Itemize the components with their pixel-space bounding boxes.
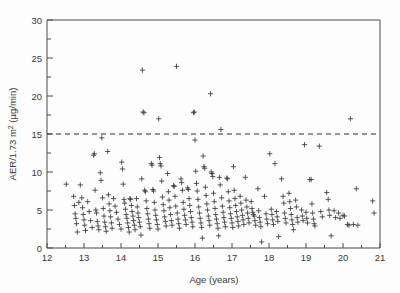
scatter-point xyxy=(83,228,88,233)
y-axis-title: AER/1.73 m2 (µg/min) xyxy=(7,88,19,181)
scatter-point xyxy=(74,221,79,226)
scatter-point xyxy=(320,214,325,219)
scatter-point xyxy=(184,222,189,227)
scatter-point xyxy=(213,212,218,217)
scatter-point xyxy=(208,91,213,96)
scatter-point xyxy=(309,201,314,206)
scatter-point xyxy=(192,137,197,142)
scatter-point xyxy=(145,211,150,216)
scatter-point xyxy=(280,194,285,199)
scatter-point xyxy=(103,224,108,229)
scatter-point xyxy=(137,220,142,225)
scatter-point xyxy=(267,151,272,156)
scatter-point xyxy=(110,226,115,231)
scatter-point xyxy=(226,198,231,203)
scatter-point xyxy=(190,224,195,229)
scatter-point xyxy=(269,212,274,217)
scatter-point xyxy=(311,217,316,222)
scatter-point xyxy=(186,196,191,201)
scatter-point xyxy=(195,188,200,193)
scatter-point xyxy=(290,222,295,227)
scatter-point xyxy=(283,220,288,225)
scatter-point xyxy=(95,219,100,224)
scatter-point xyxy=(79,195,84,200)
scatter-point xyxy=(244,204,249,209)
scatter-point xyxy=(197,210,202,215)
y-tick-label: 5 xyxy=(37,205,42,216)
scatter-point xyxy=(76,200,81,205)
scatter-point xyxy=(270,217,275,222)
scatter-point xyxy=(326,197,331,202)
scatter-point xyxy=(201,153,206,158)
scatter-point xyxy=(163,219,168,224)
scatter-point xyxy=(198,220,203,225)
scatter-point xyxy=(107,201,112,206)
scatter-point xyxy=(272,161,277,166)
scatter-point xyxy=(176,221,181,226)
scatter-point xyxy=(195,197,200,202)
scatter-point xyxy=(215,226,220,231)
scatter-point xyxy=(147,226,152,231)
scatter-point xyxy=(324,190,329,195)
scatter-point xyxy=(258,224,263,229)
scatter-point xyxy=(312,221,317,226)
scatter-point xyxy=(135,204,140,209)
scatter-point xyxy=(226,189,231,194)
scatter-point xyxy=(127,229,132,234)
scatter-point xyxy=(312,223,317,228)
scatter-point xyxy=(134,196,139,201)
scatter-point xyxy=(218,182,223,187)
scatter-point xyxy=(223,224,228,229)
scatter-point xyxy=(126,225,131,230)
scatter-point xyxy=(132,223,137,228)
scatter-point xyxy=(276,234,281,239)
scatter-point xyxy=(129,203,134,208)
scatter-point xyxy=(171,183,176,188)
scatter-point xyxy=(249,206,254,211)
scatter-point xyxy=(281,201,286,206)
scatter-point xyxy=(191,110,196,115)
scatter-point xyxy=(196,204,201,209)
scatter-point xyxy=(212,206,217,211)
scatter-point xyxy=(215,221,220,226)
scatter-point xyxy=(286,191,291,196)
scatter-point xyxy=(332,208,337,213)
scatter-point xyxy=(246,220,251,225)
scatter-point xyxy=(152,207,157,212)
scatter-point xyxy=(98,170,103,175)
scatter-point xyxy=(168,212,173,217)
scatter-point xyxy=(271,222,276,227)
scatter-point xyxy=(177,226,182,231)
scatter-point xyxy=(189,215,194,220)
scatter-point xyxy=(265,221,270,226)
scatter-point xyxy=(115,217,120,222)
x-axis-ticks xyxy=(47,243,380,248)
scatter-point xyxy=(217,175,222,180)
scatter-point xyxy=(130,209,135,214)
y-tick-label: 10 xyxy=(31,167,42,178)
scatter-point xyxy=(227,205,232,210)
scatter-point xyxy=(221,215,226,220)
scatter-point xyxy=(101,213,106,218)
scatter-point xyxy=(147,221,152,226)
scatter-point xyxy=(144,206,149,211)
scatter-point xyxy=(127,196,132,201)
scatter-point xyxy=(167,205,172,210)
scatter-point xyxy=(81,217,86,222)
x-tick-label: 18 xyxy=(264,252,275,263)
scatter-point xyxy=(234,209,239,214)
scatter-point xyxy=(252,218,257,223)
scatter-point xyxy=(336,210,341,215)
x-tick-label: 19 xyxy=(301,252,312,263)
scatter-point xyxy=(100,195,105,200)
scatter-point xyxy=(108,214,113,219)
scatter-point xyxy=(304,216,309,221)
scatter-point xyxy=(173,204,178,209)
scatter-point xyxy=(246,216,251,221)
scatter-point xyxy=(300,218,305,223)
scatter-points xyxy=(64,64,377,245)
y-tick-label: 30 xyxy=(31,15,42,26)
scatter-point xyxy=(194,181,199,186)
scatter-point xyxy=(232,188,237,193)
scatter-point xyxy=(326,207,331,212)
